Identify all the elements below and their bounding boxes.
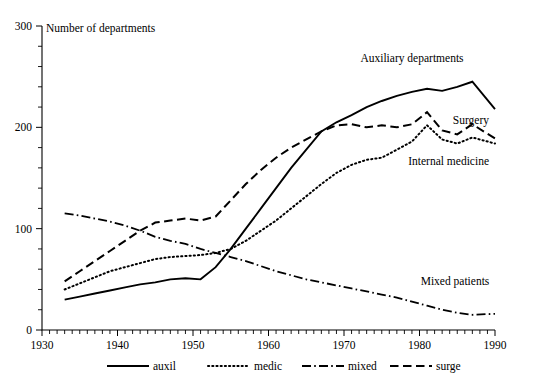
annotation-medic: Internal medicine bbox=[408, 155, 489, 167]
legend: auxilmedicmixedsurge bbox=[107, 360, 461, 373]
y-tick-label: 0 bbox=[26, 324, 32, 336]
y-tick-label: 300 bbox=[15, 20, 33, 32]
y-axis-title: Number of departments bbox=[46, 22, 156, 35]
legend-label-surge: surge bbox=[436, 360, 461, 373]
x-tick-label: 1970 bbox=[333, 339, 356, 351]
line-chart-svg: 01002003001930194019501960197019801990 A… bbox=[0, 0, 534, 380]
annotation-surge: Surgery bbox=[453, 114, 489, 127]
x-tick-label: 1930 bbox=[31, 339, 54, 351]
axes: 01002003001930194019501960197019801990 bbox=[15, 20, 507, 351]
x-tick-label: 1960 bbox=[257, 339, 280, 351]
x-tick-label: 1990 bbox=[484, 339, 507, 351]
x-tick-label: 1940 bbox=[106, 339, 129, 351]
legend-label-mixed: mixed bbox=[348, 360, 377, 372]
series-annotations: Auxiliary departmentsSurgeryInternal med… bbox=[360, 52, 489, 288]
annotation-mixed: Mixed patients bbox=[421, 275, 490, 288]
series-line-mixed bbox=[65, 213, 495, 314]
legend-label-medic: medic bbox=[254, 360, 282, 372]
y-tick-label: 200 bbox=[15, 121, 33, 133]
x-tick-label: 1950 bbox=[182, 339, 205, 351]
x-tick-label: 1980 bbox=[408, 339, 431, 351]
y-tick-label: 100 bbox=[15, 223, 33, 235]
annotation-auxil: Auxiliary departments bbox=[360, 52, 464, 65]
legend-label-auxil: auxil bbox=[153, 360, 176, 372]
chart-container: 01002003001930194019501960197019801990 A… bbox=[0, 0, 534, 380]
series-line-surge bbox=[65, 112, 495, 281]
series-line-medic bbox=[65, 125, 495, 289]
